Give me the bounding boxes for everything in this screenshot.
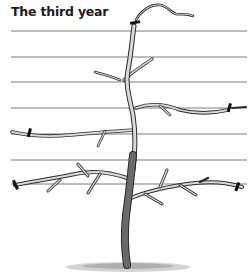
middle-tier-branches <box>12 105 246 146</box>
illustration: The third year <box>0 0 250 280</box>
espalier-tree-drawing <box>0 0 250 280</box>
wire-ties <box>12 20 240 191</box>
upper-branches <box>95 59 152 80</box>
new-growth-shoot <box>136 5 193 20</box>
trunk <box>125 26 135 265</box>
